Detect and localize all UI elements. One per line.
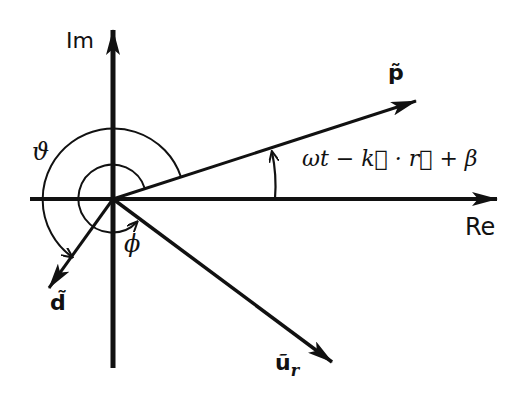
vector-u-r-subscript: r <box>291 361 299 380</box>
phasor-diagram-canvas <box>0 0 527 408</box>
phi-label: ϕ <box>124 232 140 256</box>
vector-d-label: d̃ <box>50 292 66 314</box>
real-axis-label: Re <box>465 215 495 239</box>
vector-u-r-symbol: ũ <box>275 350 291 375</box>
vector-p-label: p̃ <box>388 62 404 84</box>
vector-u-r <box>113 199 332 362</box>
phase-angle-label: ωt − k⃗ · r⃗ + β <box>302 148 478 170</box>
vector-u-r-label: ũr <box>275 352 299 379</box>
theta-label: ϑ <box>32 140 49 164</box>
imaginary-axis-label: Im <box>66 30 94 52</box>
phase-angle-arc <box>272 152 276 199</box>
